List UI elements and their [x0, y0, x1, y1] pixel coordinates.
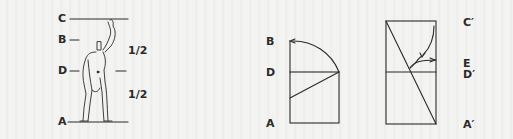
modulor-figure-icon: [80, 19, 115, 121]
label-b: B: [58, 34, 66, 45]
left-panel-lines: [68, 19, 128, 122]
ratio-lower: 1/2: [128, 89, 147, 100]
label-d: D: [58, 65, 67, 76]
right-panel-construction: [386, 21, 436, 124]
label-d-prime: D′: [463, 69, 475, 80]
label-d-middle: D: [266, 67, 275, 78]
label-a-middle: A: [266, 118, 275, 129]
label-a: A: [58, 116, 67, 127]
label-b-middle: B: [266, 36, 274, 47]
label-c: C: [58, 13, 66, 24]
proportion-diagram: [0, 0, 513, 139]
ratio-upper: 1/2: [128, 45, 147, 56]
label-a-prime: A′: [463, 119, 474, 130]
middle-panel-construction: [290, 39, 339, 123]
label-c-prime: C′: [463, 17, 474, 28]
